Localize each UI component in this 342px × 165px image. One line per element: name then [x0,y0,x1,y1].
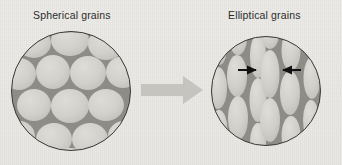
left-panel-circle [2,11,140,165]
right-panel-circle [209,16,323,165]
figure-canvas: Spherical grains Elliptical grains [0,0,342,165]
transition-arrow-icon [141,76,203,104]
diagram-svg [0,0,342,165]
